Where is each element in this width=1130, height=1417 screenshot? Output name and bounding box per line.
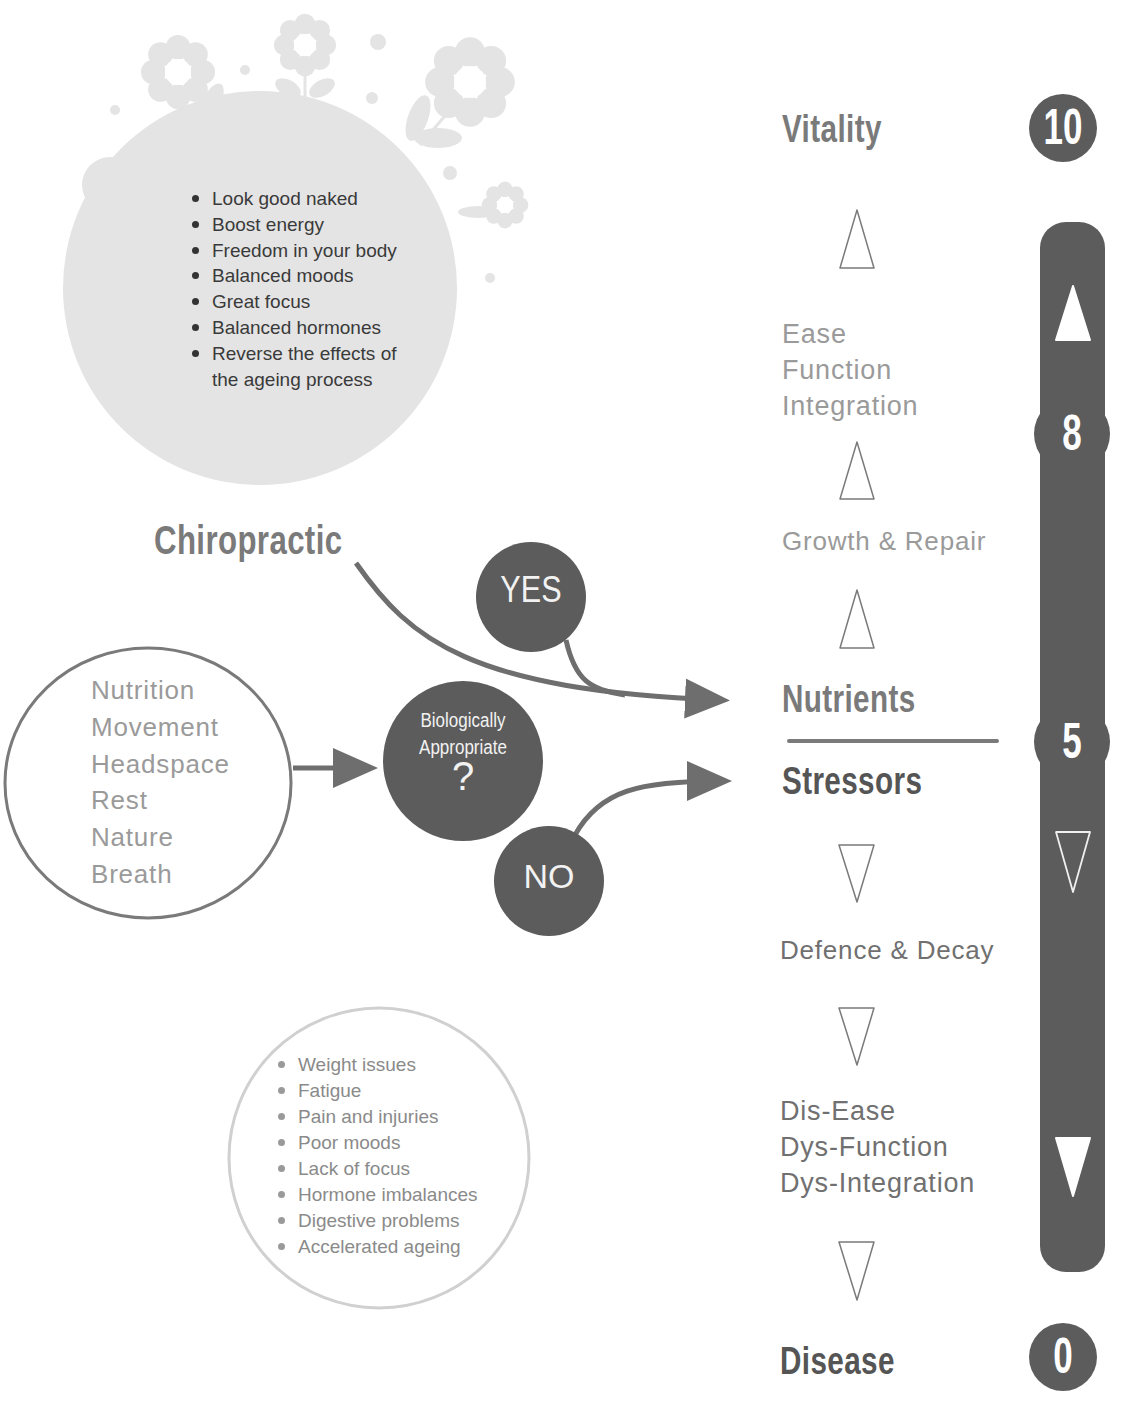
symptom-item: Poor moods (274, 1130, 478, 1156)
chiropractic-label: Chiropractic (154, 518, 342, 563)
question-mark: ? (443, 754, 483, 799)
scale-value-0: 0 (1039, 1327, 1088, 1385)
down-triangle-icon (839, 1008, 874, 1065)
benefit-item-continued: the ageing process (188, 367, 397, 393)
ease-labels: Ease Function Integration (782, 316, 918, 424)
input-item: Nutrition (91, 672, 230, 709)
growth-repair-label: Growth & Repair (782, 523, 986, 559)
up-triangle-icon (840, 590, 874, 648)
function-line: Function (782, 352, 918, 388)
dis-ease-line: Dis-Ease (780, 1093, 975, 1129)
down-triangle-icon (839, 1242, 874, 1300)
no-label: NO (494, 857, 604, 896)
benefits-list: Look good naked Boost energy Freedom in … (188, 186, 397, 392)
dys-integration-line: Dys-Integration (780, 1165, 975, 1201)
benefit-item: Look good naked (188, 186, 397, 212)
symptom-item: Accelerated ageing (274, 1234, 478, 1260)
ease-line: Ease (782, 316, 918, 352)
scale-value-5: 5 (1048, 712, 1097, 770)
yes-label: YES (484, 569, 578, 611)
up-triangle-icon (840, 442, 874, 499)
decision-line-1: Biologically (395, 707, 531, 734)
defence-decay-label: Defence & Decay (780, 932, 994, 968)
disease-label: Disease (780, 1340, 895, 1383)
input-item: Breath (91, 856, 230, 893)
input-item: Rest (91, 782, 230, 819)
stressors-label: Stressors (782, 760, 922, 803)
integration-line: Integration (782, 388, 918, 424)
scale-value-8: 8 (1048, 404, 1097, 462)
symptom-item: Weight issues (274, 1052, 478, 1078)
input-item: Headspace (91, 746, 230, 783)
inputs-list: Nutrition Movement Headspace Rest Nature… (91, 672, 230, 893)
symptoms-list: Weight issues Fatigue Pain and injuries … (274, 1052, 478, 1260)
benefit-item: Balanced hormones (188, 315, 397, 341)
symptom-item: Pain and injuries (274, 1104, 478, 1130)
symptom-item: Lack of focus (274, 1156, 478, 1182)
symptom-item: Digestive problems (274, 1208, 478, 1234)
wellness-diagram: Look good naked Boost energy Freedom in … (0, 0, 1130, 1417)
dys-function-line: Dys-Function (780, 1129, 975, 1165)
symptom-item: Fatigue (274, 1078, 478, 1104)
input-item: Nature (91, 819, 230, 856)
down-triangle-icon (839, 845, 874, 902)
vitality-label: Vitality (782, 108, 882, 151)
scale-value-10: 10 (1039, 98, 1088, 156)
decision-label: Biologically Appropriate (395, 707, 531, 761)
benefit-item: Great focus (188, 289, 397, 315)
arrow-no-to-stressors (575, 781, 722, 835)
benefit-item: Boost energy (188, 212, 397, 238)
symptom-item: Hormone imbalances (274, 1182, 478, 1208)
dis-labels: Dis-Ease Dys-Function Dys-Integration (780, 1093, 975, 1201)
nutrients-label: Nutrients (782, 678, 916, 721)
benefit-item: Freedom in your body (188, 238, 397, 264)
benefit-item: Balanced moods (188, 263, 397, 289)
up-triangle-icon (840, 210, 874, 268)
input-item: Movement (91, 709, 230, 746)
benefit-item: Reverse the effects of (188, 341, 397, 367)
